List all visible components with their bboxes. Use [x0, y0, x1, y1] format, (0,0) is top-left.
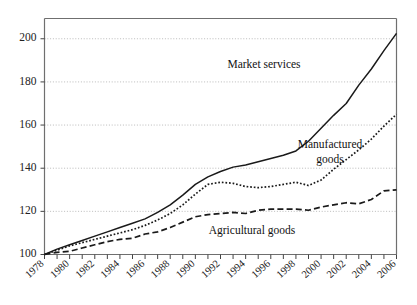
line-chart-canvas: 100120140160180200 197819801982198419861…	[0, 0, 417, 305]
x-tick-label: 2000	[299, 258, 322, 280]
y-tick-label: 120	[19, 204, 37, 216]
x-tick-label: 1984	[98, 257, 122, 280]
x-tick-label: 1980	[48, 258, 71, 280]
y-tick-label: 100	[19, 247, 37, 259]
series-annotation: goods	[316, 153, 344, 166]
x-tick-label: 2006	[375, 258, 398, 280]
x-tick-label: 1990	[174, 258, 197, 280]
chart-figure: 100120140160180200 197819801982198419861…	[0, 0, 417, 305]
series-annotation: Market services	[227, 58, 301, 70]
x-tick-label: 1996	[249, 258, 272, 280]
y-tick-label: 140	[19, 161, 37, 173]
series-line	[45, 190, 397, 255]
y-tick-label: 180	[19, 75, 37, 87]
x-axis-ticks	[45, 255, 397, 260]
x-tick-label: 1992	[199, 258, 222, 280]
x-tick-label: 2002	[325, 258, 348, 280]
x-axis-tick-labels: 1978198019821984198619881990199219941996…	[23, 257, 398, 280]
x-tick-label: 1986	[123, 258, 146, 280]
x-tick-label: 1982	[73, 258, 96, 280]
series-annotation: Agricultural goods	[209, 224, 296, 237]
plot-frame	[45, 19, 397, 255]
y-tick-label: 200	[19, 31, 37, 43]
x-tick-label: 2004	[350, 257, 374, 280]
series-annotations: Market servicesManufacturedgoodsAgricult…	[209, 58, 363, 237]
x-tick-label: 1994	[224, 257, 248, 280]
y-axis-tick-labels: 100120140160180200	[19, 31, 37, 259]
x-tick-label: 1988	[149, 258, 172, 280]
series-annotation: Manufactured	[298, 138, 363, 150]
y-tick-label: 160	[19, 118, 37, 130]
x-tick-label: 1998	[274, 258, 297, 280]
x-tick-label: 1978	[23, 258, 46, 280]
